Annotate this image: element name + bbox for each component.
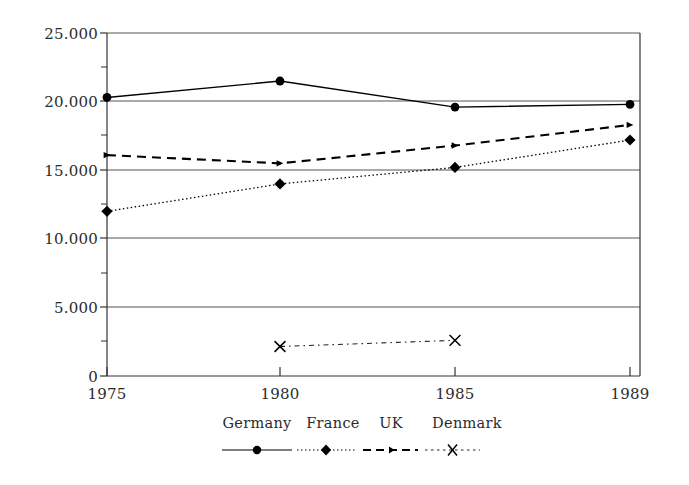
legend-marker-germany-circle-icon — [253, 446, 261, 454]
data-point-diamond-icon — [274, 178, 285, 189]
series-france — [101, 134, 635, 217]
data-point-diamond-icon — [101, 206, 112, 217]
series-markers-uk — [104, 122, 634, 167]
data-point-circle-icon — [103, 93, 112, 102]
data-point-x-icon — [450, 335, 461, 346]
data-point-circle-icon — [276, 77, 285, 86]
x-axis-ticks — [107, 367, 630, 376]
plot-area — [0, 0, 689, 485]
axis-lines — [107, 33, 640, 376]
data-point-circle-icon — [451, 103, 460, 112]
data-point-triangle-icon — [277, 160, 284, 166]
legend-marker-uk-triangle-icon — [389, 447, 395, 454]
series-uk — [104, 122, 634, 167]
data-point-triangle-icon — [452, 142, 459, 148]
series-line-france — [107, 140, 630, 211]
legend-samples — [222, 445, 480, 456]
legend-label-france: France — [292, 415, 374, 431]
line-chart: 25.000 20.000 15.000 10.000 5.000 0 1975… — [0, 0, 689, 485]
data-point-triangle-icon — [627, 122, 634, 128]
data-point-diamond-icon — [449, 162, 460, 173]
data-point-circle-icon — [626, 100, 635, 109]
series-germany — [103, 77, 635, 112]
gridlines — [107, 33, 640, 307]
y-axis-minor-ticks — [100, 33, 107, 376]
legend-label-uk: UK — [364, 415, 418, 431]
series-line-uk — [107, 125, 630, 163]
data-point-diamond-icon — [624, 134, 635, 145]
legend-marker-france-diamond-icon — [321, 445, 331, 456]
legend-label-denmark: Denmark — [421, 415, 513, 431]
series-line-germany — [107, 81, 630, 107]
series-denmark — [275, 335, 461, 352]
series-line-denmark — [280, 340, 455, 346]
